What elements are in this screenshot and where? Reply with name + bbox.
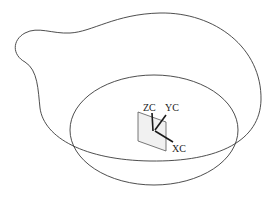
zc-label: ZC bbox=[143, 102, 156, 113]
zc-axis-line bbox=[152, 113, 153, 131]
sketch-canvas: ZC YC XC bbox=[0, 0, 276, 199]
xc-label: XC bbox=[172, 143, 186, 154]
yc-label: YC bbox=[165, 102, 179, 113]
